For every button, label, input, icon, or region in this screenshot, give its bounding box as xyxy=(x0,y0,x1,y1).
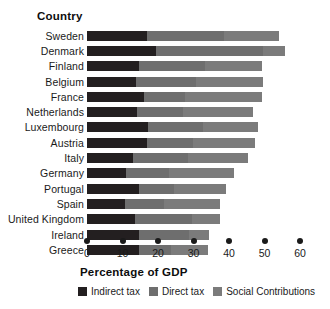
bar-segment-indirect-tax xyxy=(87,138,147,148)
x-axis-tick-label: 0 xyxy=(84,247,90,259)
x-axis-title: Percentage of GDP xyxy=(80,266,188,278)
category-label: Austria xyxy=(51,137,84,149)
stacked-bar xyxy=(87,214,220,224)
legend-label: Social Contributions xyxy=(226,286,315,297)
category-label: Finland xyxy=(49,60,84,72)
x-axis-tick-dot xyxy=(120,238,126,244)
bar-segment-social-contributions xyxy=(205,61,263,71)
stacked-bar xyxy=(87,184,226,194)
bar-segment-social-contributions xyxy=(188,153,248,163)
bar-segment-indirect-tax xyxy=(87,77,136,87)
stacked-bar xyxy=(87,77,263,87)
category-label: Denmark xyxy=(41,45,84,57)
category-label: Italy xyxy=(64,152,84,164)
bar-segment-social-contributions xyxy=(263,46,285,56)
x-axis-tick-dot xyxy=(262,238,268,244)
bar-segment-direct-tax xyxy=(137,107,183,117)
bar-row: Luxembourg xyxy=(0,120,330,135)
bar-segment-direct-tax xyxy=(156,46,263,56)
bar-segment-social-contributions xyxy=(185,92,262,102)
bar-segment-social-contributions xyxy=(196,77,263,87)
legend-label: Direct tax xyxy=(162,286,204,297)
legend-item[interactable]: Indirect tax xyxy=(78,286,140,297)
stacked-bar xyxy=(87,168,234,178)
bar-segment-social-contributions xyxy=(169,168,235,178)
bar-row: Spain xyxy=(0,196,330,211)
bar-segment-social-contributions xyxy=(192,214,220,224)
bar-segment-social-contributions xyxy=(203,122,258,132)
bar-segment-indirect-tax xyxy=(87,214,135,224)
bar-segment-social-contributions xyxy=(174,184,226,194)
bar-segment-indirect-tax xyxy=(87,199,125,209)
x-axis-tick-label: 50 xyxy=(259,247,271,259)
x-axis-tick-label: 40 xyxy=(223,247,235,259)
bar-segment-direct-tax xyxy=(148,122,203,132)
bar-row: France xyxy=(0,89,330,104)
bar-segment-indirect-tax xyxy=(87,31,147,41)
x-axis-tick-label: 60 xyxy=(294,247,306,259)
bar-segment-social-contributions xyxy=(183,107,253,117)
bar-segment-direct-tax xyxy=(136,77,196,87)
bar-segment-direct-tax xyxy=(133,153,188,163)
bar-segment-direct-tax xyxy=(139,184,175,194)
bar-row: United Kingdom xyxy=(0,212,330,227)
bar-segment-indirect-tax xyxy=(87,122,148,132)
category-label: United Kingdom xyxy=(8,213,84,225)
bar-segment-social-contributions xyxy=(164,199,220,209)
bar-segment-indirect-tax xyxy=(87,184,139,194)
legend-swatch-icon xyxy=(78,287,87,296)
bar-segment-indirect-tax xyxy=(87,153,133,163)
stacked-bar xyxy=(87,138,255,148)
stacked-bar xyxy=(87,46,285,56)
bar-row: Denmark xyxy=(0,43,330,58)
bar-row: Italy xyxy=(0,150,330,165)
stacked-bar xyxy=(87,122,258,132)
category-label: Netherlands xyxy=(26,106,84,118)
stacked-bar xyxy=(87,199,220,209)
stacked-bar-chart: Country SwedenDenmarkFinlandBelgiumFranc… xyxy=(0,0,330,309)
stacked-bar xyxy=(87,61,262,71)
category-label: Portugal xyxy=(44,183,84,195)
bar-segment-direct-tax xyxy=(126,168,169,178)
x-axis-tick-dot xyxy=(84,238,90,244)
bar-segment-indirect-tax xyxy=(87,61,139,71)
x-axis-tick-dot xyxy=(226,238,232,244)
bar-segment-social-contributions xyxy=(193,138,255,148)
category-label: Luxembourg xyxy=(25,121,84,133)
bar-segment-indirect-tax xyxy=(87,46,156,56)
bar-segment-direct-tax xyxy=(135,214,192,224)
y-axis-title: Country xyxy=(37,10,82,22)
x-axis-tick-dot xyxy=(297,238,303,244)
stacked-bar xyxy=(87,92,262,102)
bar-row: Portugal xyxy=(0,181,330,196)
legend-label: Indirect tax xyxy=(91,286,140,297)
category-label: Germany xyxy=(40,167,84,179)
bar-segment-indirect-tax xyxy=(87,107,137,117)
bar-segment-direct-tax xyxy=(147,31,223,41)
bar-segment-direct-tax xyxy=(144,92,185,102)
stacked-bar xyxy=(87,153,248,163)
bar-segment-indirect-tax xyxy=(87,168,126,178)
bar-row: Belgium xyxy=(0,74,330,89)
x-axis-tick-dot xyxy=(191,238,197,244)
bar-row: Finland xyxy=(0,59,330,74)
legend-swatch-icon xyxy=(149,287,158,296)
bar-segment-social-contributions xyxy=(224,31,279,41)
category-label: Belgium xyxy=(45,76,84,88)
bar-row: Netherlands xyxy=(0,105,330,120)
bar-segment-indirect-tax xyxy=(87,92,144,102)
bar-row: Austria xyxy=(0,135,330,150)
x-axis-tick-label: 20 xyxy=(152,247,164,259)
x-axis-tick-dot xyxy=(155,238,161,244)
bar-segment-direct-tax xyxy=(125,199,164,209)
x-axis-tick-label: 30 xyxy=(188,247,200,259)
bar-segment-direct-tax xyxy=(147,138,193,148)
bar-row: Germany xyxy=(0,166,330,181)
category-label: Sweden xyxy=(45,30,84,42)
legend-swatch-icon xyxy=(213,287,222,296)
chart-legend: Indirect taxDirect taxSocial Contributio… xyxy=(78,286,330,297)
stacked-bar xyxy=(87,31,279,41)
legend-item[interactable]: Social Contributions xyxy=(213,286,315,297)
bar-segment-direct-tax xyxy=(139,61,205,71)
legend-item[interactable]: Direct tax xyxy=(149,286,204,297)
